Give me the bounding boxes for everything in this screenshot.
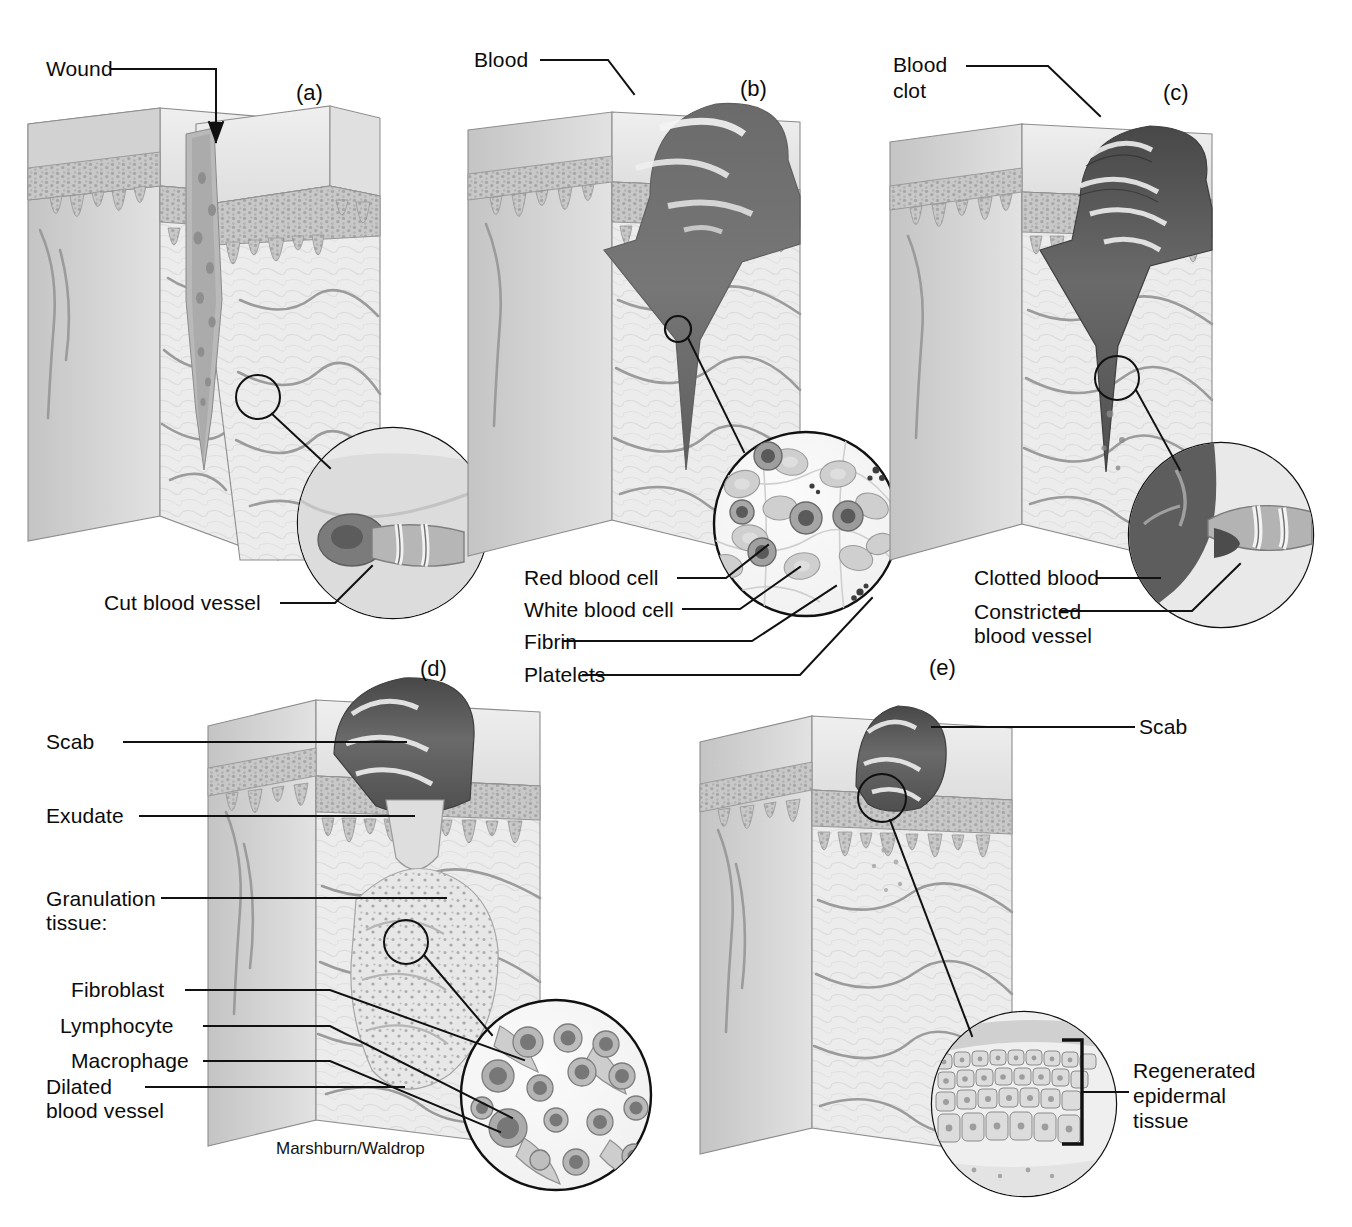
label-blood: Blood: [474, 47, 528, 72]
label-dilated-line2: blood vessel: [46, 1098, 164, 1123]
label-granulation-line1: Granulation: [46, 886, 156, 911]
label-platelets: Platelets: [524, 662, 605, 687]
label-white-blood-cell: White blood cell: [524, 597, 674, 622]
label-constricted-line2: blood vessel: [974, 623, 1092, 648]
label-macrophage: Macrophage: [71, 1048, 189, 1073]
label-d-scab: Scab: [46, 729, 94, 754]
label-red-blood-cell: Red blood cell: [524, 565, 659, 590]
panel-letter-a: (a): [296, 80, 323, 106]
label-exudate: Exudate: [46, 803, 124, 828]
label-lymphocyte: Lymphocyte: [60, 1013, 173, 1038]
label-fibroblast: Fibroblast: [71, 977, 164, 1002]
label-constricted-line1: Constricted: [974, 599, 1081, 624]
label-regenerated-line2: epidermal: [1133, 1083, 1226, 1108]
label-blood-clot-line2: clot: [893, 78, 926, 103]
label-e-scab: Scab: [1139, 714, 1187, 739]
label-regenerated-line3: tissue: [1133, 1108, 1188, 1133]
label-granulation-line2: tissue:: [46, 910, 107, 935]
panel-letter-e: (e): [929, 655, 956, 681]
label-wound: Wound: [46, 56, 113, 81]
label-clotted-blood: Clotted blood: [974, 565, 1099, 590]
label-fibrin: Fibrin: [524, 629, 577, 654]
artist-credit: Marshburn/Waldrop: [276, 1139, 425, 1159]
label-dilated-line1: Dilated: [46, 1074, 112, 1099]
panel-letter-c: (c): [1163, 80, 1189, 106]
panel-letter-d: (d): [420, 656, 447, 682]
label-blood-clot-line1: Blood: [893, 52, 947, 77]
panel-letter-b: (b): [740, 76, 767, 102]
wound-healing-figure: (a) (b) (c) (d) (e) Wound Cut blood vess…: [0, 0, 1352, 1227]
label-cut-blood-vessel: Cut blood vessel: [104, 590, 261, 615]
label-regenerated-line1: Regenerated: [1133, 1058, 1256, 1083]
